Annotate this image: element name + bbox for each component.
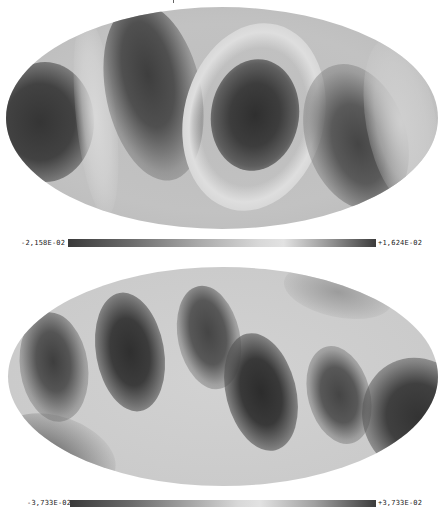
top-colorbar-max-label: +1,624E-02: [378, 239, 422, 247]
bottom-dark-blob-left-center: [86, 287, 174, 417]
top-marker: [173, 0, 174, 3]
bottom-dark-blob-far-left: [13, 308, 96, 426]
bottom-colorbar: [70, 500, 376, 507]
bottom-gray-region-upper-right: [279, 267, 397, 328]
bottom-sky-map: [8, 267, 438, 486]
bottom-colorbar-min-label: -3,733E-02: [27, 499, 71, 507]
bottom-colorbar-max-label: +3,733E-02: [378, 499, 422, 507]
top-colorbar-min-label: -2,158E-02: [21, 239, 65, 247]
top-colorbar: [68, 239, 376, 247]
top-sky-map: [6, 7, 438, 229]
